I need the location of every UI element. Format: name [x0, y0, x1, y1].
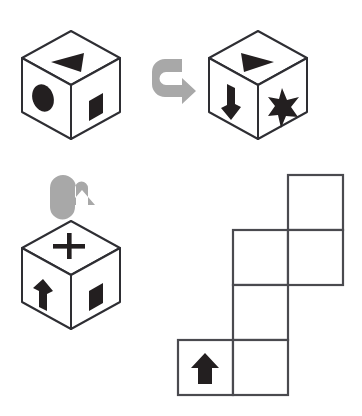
net-cell-r1c2[interactable] — [288, 230, 343, 285]
net-cell-r0c2[interactable] — [288, 175, 343, 230]
net-cell-r1c1[interactable] — [233, 230, 288, 285]
diagram-canvas — [0, 0, 362, 416]
net-cell-r3c1[interactable] — [233, 340, 288, 395]
cube-1[interactable] — [22, 31, 120, 139]
u-turn-arrow-right-icon — [152, 59, 196, 104]
u-turn-arrow-up-icon — [50, 175, 95, 220]
cube-2[interactable] — [209, 31, 307, 139]
puzzle-diagram — [0, 0, 362, 416]
cube-net[interactable] — [178, 175, 343, 395]
cube-3[interactable] — [22, 221, 120, 329]
net-cell-r2c1[interactable] — [233, 285, 288, 340]
